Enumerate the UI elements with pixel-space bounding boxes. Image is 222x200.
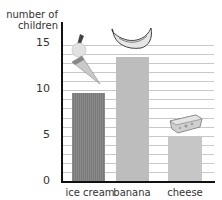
bar-ice-cream xyxy=(72,93,105,181)
x-label-ice-cream: ice cream xyxy=(64,187,116,198)
y-tick-0: 0 xyxy=(20,174,50,187)
y-tick-5: 5 xyxy=(20,128,50,141)
y-axis xyxy=(61,22,63,183)
y-tick-15: 15 xyxy=(20,36,50,49)
y-axis-title-line2: children xyxy=(2,20,58,31)
x-label-cheese: cheese xyxy=(164,187,206,198)
bar-cheese xyxy=(168,136,202,181)
y-tick-10: 10 xyxy=(20,82,50,95)
y-axis-title-line1: number of xyxy=(2,9,58,20)
ice-cream-icon xyxy=(70,32,104,88)
bar-banana xyxy=(116,57,149,181)
banana-icon xyxy=(111,24,155,54)
x-label-banana: banana xyxy=(112,187,152,198)
x-axis xyxy=(61,181,215,183)
y-axis-title: number of children xyxy=(2,9,58,31)
cheese-icon xyxy=(168,113,204,135)
